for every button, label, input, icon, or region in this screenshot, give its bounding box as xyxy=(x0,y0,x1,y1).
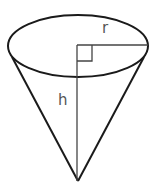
cone-figure xyxy=(0,0,153,195)
right-angle-marker xyxy=(77,45,92,61)
height-label: h xyxy=(58,93,68,108)
cone-diagram: r h xyxy=(0,0,153,195)
cone-left-side xyxy=(12,57,78,181)
cone-base-ellipse xyxy=(8,15,148,77)
radius-label: r xyxy=(102,21,108,36)
cone-right-side xyxy=(78,57,144,181)
